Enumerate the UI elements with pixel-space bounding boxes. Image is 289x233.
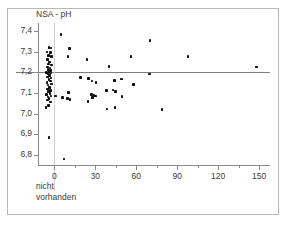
x-tick: [218, 165, 219, 170]
data-point: [95, 81, 98, 84]
plot-area: 6,86,97,07,17,27,37,4 0306090120150: [38, 23, 270, 165]
data-point: [46, 51, 49, 54]
data-point: [120, 78, 123, 81]
data-point: [50, 95, 53, 98]
data-point: [48, 136, 51, 139]
data-point: [87, 100, 90, 103]
figure-frame: NSA - pH 6,86,97,07,17,27,37,4 030609012…: [7, 8, 279, 215]
x-tick: [95, 165, 96, 170]
x-minor-tick: [157, 165, 158, 168]
y-tick-label: 7,2: [6, 67, 32, 76]
y-tick-label: 6,8: [6, 150, 32, 159]
y-tick-label: 6,9: [6, 129, 32, 138]
y-axis-title: NSA - pH: [36, 10, 71, 19]
data-point: [63, 158, 66, 161]
data-point: [105, 89, 108, 92]
data-point: [255, 66, 258, 69]
x-axis-line: [38, 165, 270, 166]
data-point: [114, 106, 117, 109]
data-point: [121, 95, 124, 98]
data-point: [54, 95, 57, 98]
data-point: [50, 83, 53, 86]
data-point: [60, 33, 63, 36]
y-tick-label: 7,1: [6, 88, 32, 97]
x-tick: [177, 165, 178, 170]
data-point: [50, 47, 53, 50]
data-point: [68, 47, 71, 50]
data-point: [132, 83, 135, 86]
data-point: [49, 101, 52, 104]
x-tick-label: 120: [206, 172, 230, 181]
x-tick-label: 60: [124, 172, 148, 181]
data-point: [67, 55, 70, 58]
group-caption-line-2: vorhanden: [36, 192, 76, 203]
y-tick-label: 7,4: [6, 26, 32, 35]
data-point: [50, 55, 53, 58]
x-tick-label: 150: [247, 172, 271, 181]
data-point: [87, 77, 90, 80]
data-point: [106, 108, 109, 111]
y-tick: [34, 155, 39, 156]
x-tick-label: 90: [165, 172, 189, 181]
data-point: [79, 76, 82, 79]
data-point: [69, 98, 72, 101]
x-tick: [136, 165, 137, 170]
data-point: [86, 58, 89, 61]
data-point: [47, 54, 50, 57]
data-point: [50, 64, 53, 67]
data-point: [61, 96, 64, 99]
y-tick: [34, 52, 39, 53]
data-point: [130, 55, 133, 58]
x-minor-tick: [239, 165, 240, 168]
data-point: [91, 80, 94, 83]
data-point: [94, 95, 97, 98]
data-point: [187, 55, 190, 58]
x-tick-label: 0: [42, 172, 66, 181]
y-tick: [34, 31, 39, 32]
data-point: [49, 80, 52, 83]
y-tick: [34, 114, 39, 115]
data-point: [114, 90, 117, 93]
data-point: [47, 104, 50, 107]
data-point: [148, 73, 151, 76]
data-point: [45, 106, 48, 109]
y-tick-label: 7,0: [6, 109, 32, 118]
x-tick: [259, 165, 260, 170]
x-minor-tick: [198, 165, 199, 168]
y-tick-label: 7,3: [6, 47, 32, 56]
x-minor-tick: [116, 165, 117, 168]
group-caption-line-1: nicht: [36, 181, 76, 192]
x-tick: [54, 165, 55, 170]
y-tick: [34, 72, 39, 73]
x-minor-tick: [75, 165, 76, 168]
data-point: [149, 39, 152, 42]
data-point: [161, 108, 164, 111]
x-tick-label: 30: [83, 172, 107, 181]
data-point: [46, 99, 49, 102]
data-point: [108, 65, 111, 68]
data-point: [113, 79, 116, 82]
y-tick: [34, 134, 39, 135]
y-tick: [34, 93, 39, 94]
y-axis-line: [38, 23, 39, 165]
data-point: [91, 96, 94, 99]
group-caption: nicht vorhanden: [36, 181, 76, 203]
data-point: [67, 91, 70, 94]
